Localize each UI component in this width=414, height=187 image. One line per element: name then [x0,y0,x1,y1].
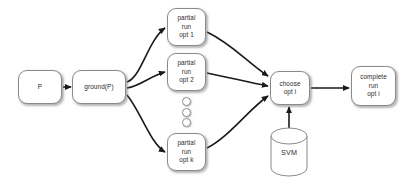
edge-opt2-to-choose [207,73,268,86]
node-partial-run-opt-1-line-0: partial [177,14,195,22]
node-p-line-0: P [38,83,42,91]
node-partial-run-opt-1-line-1: run [182,23,192,31]
edge-opt1-to-choose [207,32,268,76]
diagram-canvas: P ground(P) partial run opt 1 partial ru… [0,0,414,187]
node-partial-run-opt-2[interactable]: partial run opt 2 [167,53,206,91]
node-choose-opt-i-line-1: opt i [284,88,297,96]
ellipsis-dot-1 [182,97,191,106]
node-choose-opt-i[interactable]: choose opt i [270,71,310,105]
node-partial-run-opt-1-line-2: opt 1 [179,31,194,39]
database-svm[interactable]: SVM [270,127,308,177]
node-complete-run-opt-i-line-0: complete [360,73,387,81]
node-partial-run-opt-2-line-1: run [182,68,192,76]
edge-ground-to-optk [127,95,165,152]
node-partial-run-opt-2-line-2: opt 2 [179,76,194,84]
node-complete-run-opt-i-line-1: run [369,82,379,90]
node-partial-run-opt-k-line-0: partial [177,139,195,147]
node-complete-run-opt-i-line-2: opt i [367,90,380,98]
node-partial-run-opt-k-line-1: run [182,148,192,156]
edge-ground-to-opt2 [127,72,165,88]
node-partial-run-opt-k[interactable]: partial run opt k [167,133,206,171]
node-p[interactable]: P [18,70,62,104]
ellipsis-dot-2 [182,108,191,117]
node-ground-p[interactable]: ground(P) [72,70,126,104]
node-partial-run-opt-2-line-0: partial [177,59,195,67]
edge-optk-to-choose [207,96,268,148]
database-svm-label: SVM [270,127,308,177]
ellipsis-dot-3 [182,118,191,127]
node-partial-run-opt-1[interactable]: partial run opt 1 [167,8,206,46]
node-ground-p-line-0: ground(P) [84,83,113,91]
node-complete-run-opt-i[interactable]: complete run opt i [351,66,396,106]
vertical-ellipsis-icon [182,97,191,127]
node-choose-opt-i-line-0: choose [279,80,300,88]
node-partial-run-opt-k-line-2: opt k [179,156,193,164]
